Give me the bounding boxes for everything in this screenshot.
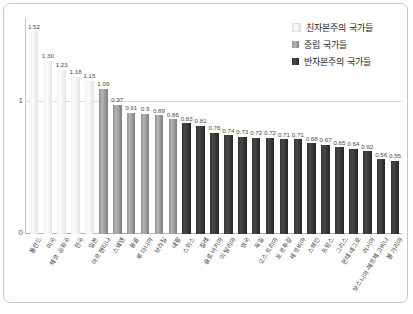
bar-value-label: 0.74 <box>222 128 234 134</box>
bar-일본[interactable]: 1.15 <box>85 18 94 234</box>
bar-포르투갈[interactable]: 0.71 <box>280 18 289 234</box>
bar-value-label: 0.67 <box>320 137 332 143</box>
bar-rect <box>196 126 205 234</box>
bar-value-label: 0.71 <box>278 132 290 138</box>
chart-container: 1 0 1.521.301.231.181.151.090.970.910.90… <box>0 0 413 314</box>
bar-rect <box>349 149 358 234</box>
bar-아르헨티나[interactable]: 1.09 <box>99 18 108 234</box>
bar-rect <box>127 113 136 234</box>
bar-rect <box>335 147 344 234</box>
bar-rect <box>71 77 80 234</box>
bar-rect <box>182 123 191 234</box>
bar-rect <box>141 114 150 234</box>
bar-rect <box>238 137 247 234</box>
bar-value-label: 1.18 <box>70 69 82 75</box>
bar-rect <box>99 89 108 234</box>
x-axis-label: 칠레 <box>197 236 209 250</box>
legend-label-neutral: 중립 국가들 <box>304 40 347 50</box>
legend-swatch-pro-icon <box>292 23 301 32</box>
x-axis-category-labels: 폴란드미국체코 공화국한국일본아르헨티나스웨덴몽골루마니아브라질네팔스위스칠레슬… <box>27 236 402 306</box>
bar-브라질[interactable]: 0.89 <box>155 18 164 234</box>
bar-value-label: 0.89 <box>153 108 165 114</box>
bar-value-label: 0.9 <box>141 106 150 112</box>
bar-value-label: 0.72 <box>250 130 262 136</box>
legend-label-anti: 반자본주의 국가들 <box>304 57 371 67</box>
x-axis-label: 독일 <box>253 236 265 250</box>
bar-네팔[interactable]: 0.86 <box>169 18 178 234</box>
bar-rect <box>321 145 330 234</box>
legend-item-pro[interactable]: 친자본주의 국가들 <box>292 20 404 35</box>
bar-스웨덴[interactable]: 0.97 <box>113 18 122 234</box>
bar-rect <box>224 135 233 234</box>
x-axis-label: 스위스 <box>180 236 195 255</box>
bar-value-label: 0.81 <box>195 118 207 124</box>
bar-value-label: 0.55 <box>389 153 401 159</box>
bar-value-label: 0.72 <box>264 130 276 136</box>
bar-value-label: 0.91 <box>125 105 137 111</box>
bar-rect <box>210 133 219 234</box>
bar-칠레[interactable]: 0.81 <box>196 18 205 234</box>
x-axis-label: 한국 <box>72 236 84 250</box>
legend-label-pro: 친자본주의 국가들 <box>306 23 373 33</box>
bar-value-label: 0.56 <box>375 152 387 158</box>
bar-독일[interactable]: 0.72 <box>252 18 261 234</box>
bar-value-label: 0.97 <box>111 97 123 103</box>
bar-value-label: 0.65 <box>333 140 345 146</box>
bar-value-label: 0.68 <box>306 136 318 142</box>
bar-rect <box>266 138 275 234</box>
bar-value-label: 0.83 <box>181 116 193 122</box>
bar-rect <box>155 115 164 234</box>
legend-swatch-neutral-icon <box>292 41 299 48</box>
bar-value-label: 1.23 <box>56 62 68 68</box>
bar-value-label: 0.62 <box>361 144 373 150</box>
bar-rect <box>363 151 372 234</box>
legend-item-anti[interactable]: 반자본주의 국가들 <box>292 54 404 69</box>
bar-rect <box>85 81 94 234</box>
x-axis-label: 스페인 <box>305 236 320 255</box>
y-axis-tick-1: 1 <box>7 97 23 105</box>
bar-rect <box>307 143 316 234</box>
bar-value-label: 0.86 <box>167 112 179 118</box>
bar-value-label: 1.15 <box>83 73 95 79</box>
x-axis-label: 네팔 <box>169 236 181 250</box>
legend: 친자본주의 국가들 중립 국가들 반자본주의 국가들 <box>292 20 404 71</box>
bar-value-label: 1.30 <box>42 53 54 59</box>
bar-rect <box>113 105 122 234</box>
bar-rect <box>57 70 66 234</box>
bar-오스트리아[interactable]: 0.72 <box>266 18 275 234</box>
x-axis-label: 일본 <box>86 236 98 250</box>
bar-스위스[interactable]: 0.83 <box>182 18 191 234</box>
bar-이탈리아[interactable]: 0.74 <box>224 18 233 234</box>
bar-체코 공화국[interactable]: 1.23 <box>57 18 66 234</box>
y-axis-line <box>25 18 26 234</box>
legend-item-neutral[interactable]: 중립 국가들 <box>292 37 404 52</box>
bar-미국[interactable]: 1.30 <box>44 18 53 234</box>
bar-rect <box>44 61 53 234</box>
bar-몽골[interactable]: 0.91 <box>127 18 136 234</box>
bar-value-label: 0.71 <box>292 132 304 138</box>
x-axis-label: 영국 <box>239 236 251 250</box>
bar-rect <box>30 31 39 234</box>
bar-value-label: 0.64 <box>347 141 359 147</box>
x-axis-label: 폴란드 <box>27 236 42 255</box>
bar-rect <box>391 161 400 234</box>
x-axis-label: 미국 <box>44 236 56 250</box>
bar-value-label: 1.52 <box>28 24 40 30</box>
bar-루마니아[interactable]: 0.9 <box>141 18 150 234</box>
x-axis-label: 몽골 <box>128 236 140 250</box>
bar-rect <box>252 138 261 234</box>
bar-value-label: 1.09 <box>97 81 109 87</box>
bar-value-label: 0.76 <box>208 125 220 131</box>
x-axis-label: 브라질 <box>152 236 167 255</box>
bar-한국[interactable]: 1.18 <box>71 18 80 234</box>
x-axis-label: 스웨덴 <box>111 236 126 255</box>
y-axis-tick-0: 0 <box>7 229 23 237</box>
bar-rect <box>280 139 289 234</box>
chart-frame: 1 0 1.521.301.231.181.151.090.970.910.90… <box>3 3 408 303</box>
bar-슬로바키아[interactable]: 0.76 <box>210 18 219 234</box>
bar-폴란드[interactable]: 1.52 <box>30 18 39 234</box>
x-axis-label: 프랑스 <box>319 236 334 255</box>
bar-영국[interactable]: 0.73 <box>238 18 247 234</box>
legend-swatch-anti-icon <box>292 58 299 65</box>
bar-rect <box>169 119 178 234</box>
